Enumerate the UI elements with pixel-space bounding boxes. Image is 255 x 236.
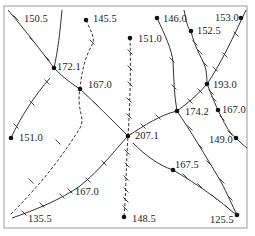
line-207-to-135: [12, 136, 128, 218]
point-marker: [128, 36, 133, 41]
line-172-north: [54, 10, 62, 68]
tick-mark: [30, 38, 35, 43]
elevation-label: 153.0: [215, 12, 239, 23]
tick-mark: [94, 102, 99, 107]
line-207-to-125: [133, 143, 237, 215]
elevation-label: 151.0: [19, 132, 43, 143]
elevation-label: 125.5: [210, 214, 234, 225]
point-marker: [126, 134, 131, 139]
point-marker: [155, 16, 160, 21]
point-marker: [239, 16, 244, 21]
elevation-label: 167.0: [222, 104, 246, 115]
elevation-label: 207.1: [135, 130, 159, 141]
elevation-label: 172.1: [57, 61, 81, 72]
tick-mark: [226, 206, 231, 211]
elevation-label: 148.5: [132, 213, 156, 224]
tick-mark: [56, 140, 61, 145]
elevation-label: 167.0: [88, 79, 112, 90]
tick-mark: [127, 98, 132, 103]
tick-mark: [110, 118, 115, 123]
tick-mark: [29, 179, 34, 184]
point-marker: [52, 66, 57, 71]
tick-mark: [212, 195, 217, 200]
line-151-west: [11, 78, 50, 138]
elevation-label: 135.5: [28, 213, 52, 224]
point-marker: [234, 136, 239, 141]
point-marker: [235, 213, 240, 218]
elevation-label: 150.5: [24, 13, 48, 24]
line-146-to-174: [157, 18, 177, 111]
point-marker: [175, 109, 180, 114]
elevation-label: 151.0: [138, 33, 162, 44]
elevation-label: 167.0: [75, 186, 99, 197]
elevation-label: 145.5: [93, 13, 117, 24]
tick-mark: [45, 56, 50, 61]
tick-mark: [220, 116, 225, 121]
ridge-150-to-207: [8, 10, 128, 136]
point-marker: [216, 108, 221, 113]
point-marker: [189, 29, 194, 34]
elevation-label: 167.5: [175, 159, 199, 170]
elevation-label: 146.0: [163, 13, 187, 24]
elevation-label: 174.2: [185, 106, 209, 117]
point-marker: [78, 87, 83, 92]
point-marker: [122, 215, 127, 220]
line-152-to-193: [184, 10, 207, 84]
point-marker: [84, 18, 89, 23]
elevation-label: 149.0: [209, 134, 233, 145]
tick-mark: [124, 198, 129, 203]
valley-151-dashed: [124, 38, 130, 217]
point-marker: [9, 136, 14, 141]
elevation-label: 193.0: [213, 79, 237, 90]
ridge-207-to-153: [128, 10, 246, 136]
point-marker: [205, 82, 210, 87]
elevation-label: 152.5: [197, 25, 221, 36]
